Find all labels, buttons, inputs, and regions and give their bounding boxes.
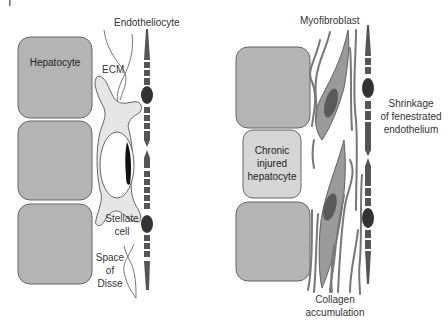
disse-label-1: Space	[92, 252, 128, 264]
shrinkage-label-2: of fenestrated	[376, 111, 446, 123]
endotheliocyte-label: Endotheliocyte	[114, 17, 180, 29]
stellate-label-2: cell	[104, 226, 140, 238]
shrinkage-label-3: endothelium	[376, 124, 446, 136]
stellate-label-1: Stellate	[104, 213, 140, 225]
myofibroblast-label: Myofibroblast	[300, 15, 359, 27]
collagen-label-2: accumulation	[300, 307, 370, 319]
injured-label-3: hepatocyte	[243, 171, 301, 183]
injured-label-1: Chronic	[243, 145, 301, 157]
hepatocyte-r3	[236, 202, 310, 281]
hepatocyte-3	[18, 204, 92, 284]
disse-label-2: of	[92, 265, 128, 277]
ecm-label: ECM	[102, 64, 124, 76]
injured-label-2: injured	[243, 158, 301, 170]
collagen-label-1: Collagen	[300, 294, 370, 306]
hepatocyte-r1	[236, 47, 310, 128]
normal-liver-panel	[18, 29, 153, 298]
disse-label-3: Disse	[92, 278, 128, 290]
endothelium-left	[141, 29, 153, 290]
corner-mark	[9, 0, 11, 6]
hepatocyte-label: Hepatocyte	[18, 57, 92, 69]
endothelium-right	[362, 25, 374, 284]
liver-diagram	[0, 0, 448, 329]
shrinkage-label-1: Shrinkage	[376, 98, 446, 110]
hepatocyte-1	[18, 37, 92, 118]
myofibroblast-1	[316, 30, 349, 140]
hepatocyte-2	[18, 121, 92, 200]
